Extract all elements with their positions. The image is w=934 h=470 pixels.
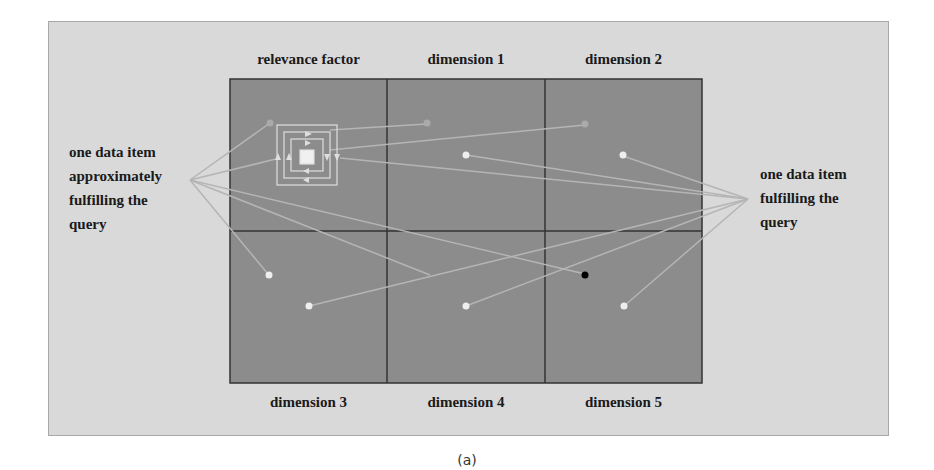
top-label-relevance-factor: relevance factor [230, 51, 387, 68]
bottom-label-dimension-4: dimension 4 [387, 394, 545, 411]
left-annotation-line: query [69, 212, 162, 236]
right-annotation-line: one data item [760, 162, 847, 186]
bottom-label-dimension-5: dimension 5 [545, 394, 702, 411]
left-annotation-line: one data item [69, 140, 162, 164]
right-annotation: one data item fulfilling the query [760, 162, 847, 234]
bottom-label-dimension-3: dimension 3 [230, 394, 387, 411]
top-label-dimension-2: dimension 2 [545, 51, 702, 68]
left-annotation-line: fulfilling the [69, 188, 162, 212]
query-point [582, 272, 589, 279]
figure-caption: (a) [0, 452, 934, 468]
top-label-dimension-1: dimension 1 [387, 51, 545, 68]
left-annotation: one data item approximately fulfilling t… [69, 140, 162, 236]
right-annotation-line: query [760, 210, 847, 234]
left-annotation-line: approximately [69, 164, 162, 188]
right-annotation-line: fulfilling the [760, 186, 847, 210]
